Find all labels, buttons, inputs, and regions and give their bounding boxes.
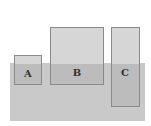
block-b-label: B [73,67,81,78]
block-c-label: C [121,67,129,78]
block-a-label: A [24,68,32,79]
